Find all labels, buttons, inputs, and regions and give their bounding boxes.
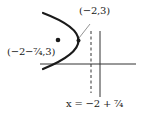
directrix-label: x = −2 + ⁷⁄₄ <box>66 99 123 109</box>
vertex-leader-line <box>79 24 90 38</box>
focus-point <box>56 38 61 43</box>
vertex-point <box>77 39 81 43</box>
parabola-diagram: (−2,3) (−2−⁷⁄₄,3) x = −2 + ⁷⁄₄ <box>0 0 143 115</box>
vertex-label: (−2,3) <box>79 6 110 16</box>
focus-label: (−2−⁷⁄₄,3) <box>7 47 55 57</box>
parabola-curve <box>43 13 79 69</box>
